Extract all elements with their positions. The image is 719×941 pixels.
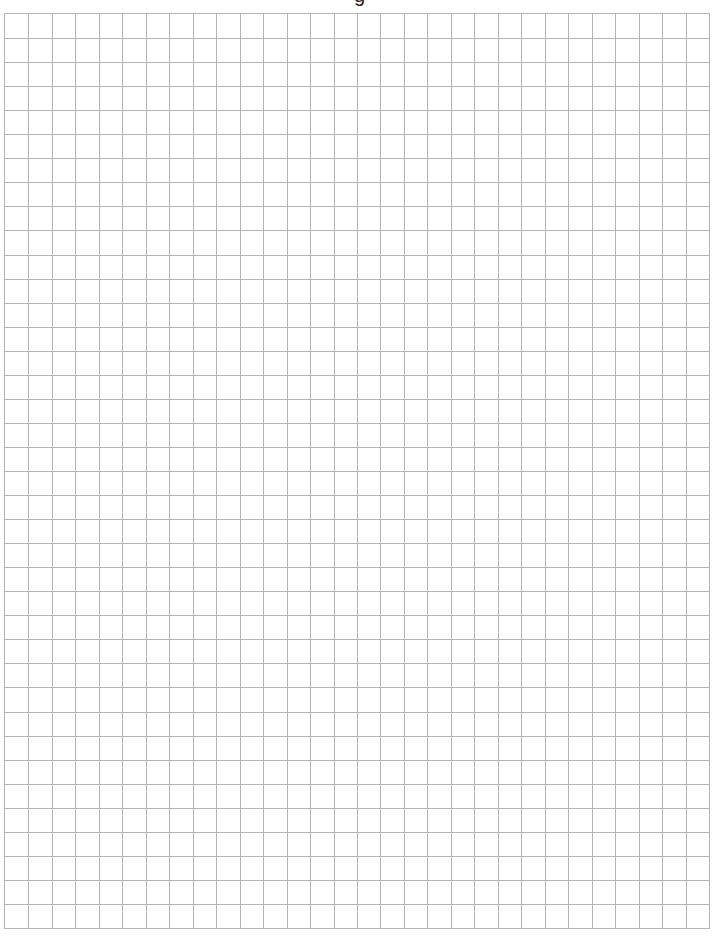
grid-lines (5, 14, 709, 928)
page-title: g (0, 0, 719, 7)
page-title-clipped: g (0, 0, 719, 8)
graph-paper-grid (4, 13, 710, 929)
